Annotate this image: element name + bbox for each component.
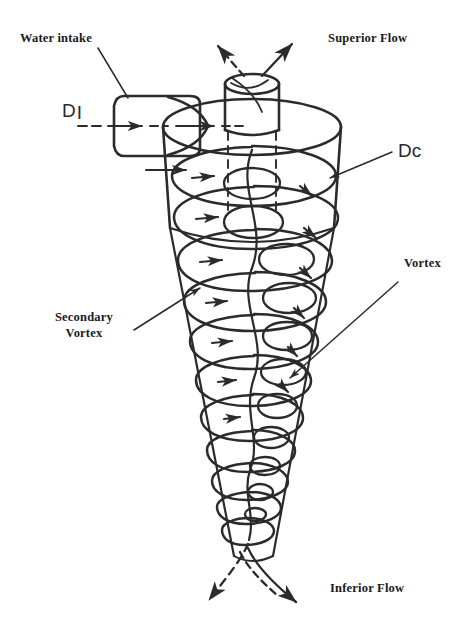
label-secondary-vortex-line1: Secondary (55, 310, 113, 324)
label-inferior-flow: Inferior Flow (330, 581, 404, 597)
vortex-finder-tube (225, 74, 279, 135)
label-secondary-vortex-line2: Vortex (66, 326, 103, 340)
leader-lines (98, 48, 398, 378)
dashed-center-axis (228, 132, 276, 214)
label-dimension-cyclone: Dc (398, 140, 421, 162)
leader-secondary-vortex (134, 288, 200, 330)
dimension-inlet-subscript: I (76, 102, 82, 123)
inferior-flow-arrows (209, 544, 296, 602)
water-intake-arrows (78, 126, 244, 170)
dimension-inlet-symbol: D (62, 100, 76, 121)
leader-vortex (290, 282, 398, 378)
cyclone-cylinder (163, 99, 341, 242)
label-superior-flow: Superior Flow (328, 31, 407, 47)
label-secondary-vortex: Secondary Vortex (36, 310, 132, 341)
core-downflow-line (247, 150, 257, 540)
label-water-intake: Water intake (20, 31, 92, 47)
leader-water-intake (98, 48, 128, 98)
label-vortex: Vortex (404, 256, 441, 272)
label-dimension-inlet: DI (62, 100, 82, 122)
superior-flow-arrows (218, 44, 292, 76)
secondary-vortex-helix (224, 168, 316, 521)
